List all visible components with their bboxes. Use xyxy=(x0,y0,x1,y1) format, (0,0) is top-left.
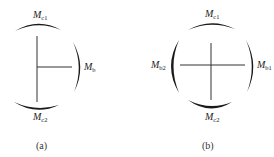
figure-a: Mc1 Mb Mc2 (a) xyxy=(14,9,96,152)
caption-a: (a) xyxy=(36,140,47,152)
label-mb: Mb xyxy=(83,61,96,73)
label-mc1: Mc1 xyxy=(32,9,47,21)
joint-moment-diagram: Mc1 Mb Mc2 (a) Mc1 Mb2 Mb1 Mc2 (b) xyxy=(0,0,274,157)
moment-arc-mc1 xyxy=(15,24,61,31)
moment-arc-mc2 xyxy=(14,102,59,110)
moment-arc-mb2 xyxy=(171,40,179,93)
figure-b: Mc1 Mb2 Mb1 Mc2 (b) xyxy=(150,8,272,152)
moment-arc-mb1 xyxy=(246,40,253,92)
moment-arc-mc1 xyxy=(188,23,235,30)
label-mc2: Mc2 xyxy=(204,111,219,123)
moment-arc-mb xyxy=(73,42,80,92)
label-mc1: Mc1 xyxy=(204,8,219,20)
label-mc2: Mc2 xyxy=(32,111,47,123)
moment-arc-mc2 xyxy=(188,100,232,109)
caption-b: (b) xyxy=(202,140,214,152)
label-mb1: Mb1 xyxy=(256,59,272,71)
label-mb2: Mb2 xyxy=(150,59,166,71)
